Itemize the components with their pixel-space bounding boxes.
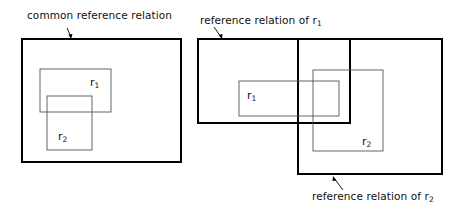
right-bottom-arrowhead-icon [333, 176, 337, 181]
common-reference-relation-rect [22, 39, 181, 162]
right-r2-rect [313, 70, 383, 151]
left-r2-rect [47, 96, 92, 150]
reference-relation-r2-rect [298, 39, 442, 174]
diagram-canvas [0, 0, 460, 215]
common-reference-relation-caption: common reference relation [27, 9, 172, 21]
left-r1-label: r1 [90, 76, 99, 90]
right-r1-label: r1 [247, 89, 256, 103]
reference-relation-r1-caption: reference relation of r1 [200, 14, 322, 28]
left-r2-label: r2 [58, 130, 67, 144]
reference-relation-r2-caption: reference relation of r2 [312, 190, 434, 204]
right-r2-label: r2 [362, 135, 371, 149]
left-r1-rect [40, 69, 111, 112]
